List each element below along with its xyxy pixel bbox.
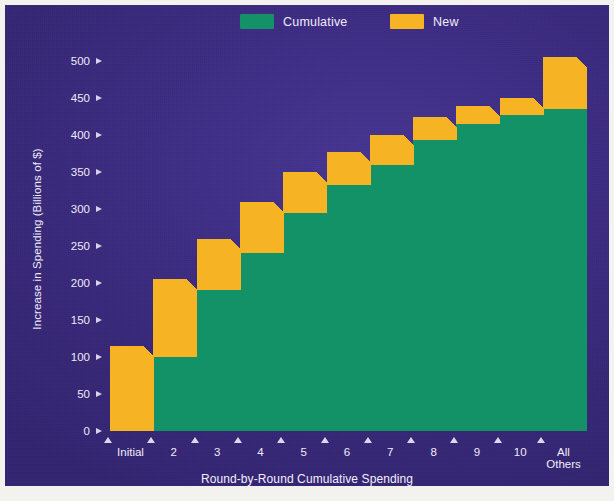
y-tick-arrow-icon: [96, 428, 102, 434]
x-tick-2: [191, 437, 199, 443]
y-tick-label-400: 400: [44, 129, 90, 141]
bar-9[interactable]: [456, 106, 500, 431]
bar-5[interactable]: [283, 172, 327, 431]
y-tick-arrow-icon: [96, 206, 102, 212]
x-tick-label-2: 2: [171, 446, 177, 458]
bar-initial[interactable]: [110, 346, 154, 431]
legend-label-cumulative: Cumulative: [283, 15, 348, 29]
bar-7[interactable]: [370, 135, 414, 431]
y-tick-label-200: 200: [44, 277, 90, 289]
x-tick-9: [494, 437, 502, 443]
y-tick-arrow-icon: [96, 169, 102, 175]
bar-top-cap-bevel: [489, 106, 500, 117]
bar-top-cap: [197, 239, 230, 250]
bar-top-cap: [500, 98, 533, 109]
bar-top-cap: [153, 279, 186, 290]
bar-3[interactable]: [197, 239, 241, 431]
bar-4[interactable]: [240, 202, 284, 431]
y-tick-arrow-icon: [96, 58, 102, 64]
y-tick-label-250: 250: [44, 240, 90, 252]
y-tick-arrow-icon: [96, 243, 102, 249]
bar-face-new: [197, 250, 241, 291]
legend-item-cumulative[interactable]: Cumulative: [240, 14, 348, 29]
x-tick-label-8: 8: [430, 446, 436, 458]
bar-face-cumulative: [240, 253, 284, 431]
bar-face-new: [543, 68, 587, 109]
bar-top-cap: [327, 152, 360, 163]
x-tick-3: [234, 437, 242, 443]
bar-face-cumulative: [370, 165, 414, 431]
x-tick-label-7: 7: [387, 446, 393, 458]
y-tick-label-500: 500: [44, 55, 90, 67]
bar-top-cap-bevel: [273, 202, 284, 213]
bar-top-cap-bevel: [316, 172, 327, 183]
legend-swatch-cumulative: [240, 14, 274, 29]
bar-top-cap-bevel: [143, 346, 154, 357]
y-tick-label-0: 0: [44, 425, 90, 437]
bar-face-new: [370, 146, 414, 165]
bar-face-cumulative: [197, 290, 241, 431]
bar-top-cap: [283, 172, 316, 183]
x-tick-label-3: 3: [214, 446, 220, 458]
bar-top-cap-bevel: [533, 98, 544, 109]
y-tick-label-350: 350: [44, 166, 90, 178]
x-tick-4: [277, 437, 285, 443]
bar-face-new: [327, 163, 371, 184]
bar-face-new: [413, 128, 457, 141]
x-tick-label-initial: Initial: [117, 446, 144, 458]
y-tick-arrow-icon: [96, 280, 102, 286]
x-tick-7: [407, 437, 415, 443]
chart-figure: Cumulative New Increase in Spending (Bil…: [0, 0, 614, 501]
x-tick-1: [147, 437, 155, 443]
bar-face-cumulative: [283, 213, 327, 431]
bar-face-new: [153, 290, 197, 357]
bar-top-cap-bevel: [576, 57, 587, 68]
legend-item-new[interactable]: New: [390, 14, 459, 29]
bar-all-others[interactable]: [543, 57, 587, 431]
bar-2[interactable]: [153, 279, 197, 431]
y-tick-arrow-icon: [96, 317, 102, 323]
bar-top-cap-bevel: [186, 279, 197, 290]
bar-top-cap-bevel: [360, 152, 371, 163]
x-tick-label-all-others: AllOthers: [546, 446, 581, 470]
bar-6[interactable]: [327, 152, 371, 431]
x-tick-label-10: 10: [514, 446, 527, 458]
bar-face-cumulative: [413, 140, 457, 431]
y-tick-label-100: 100: [44, 351, 90, 363]
x-tick-label-9: 9: [474, 446, 480, 458]
x-tick-label-4: 4: [257, 446, 263, 458]
y-axis-title: Increase in Spending (Billions of $): [31, 114, 43, 364]
x-tick-label-5: 5: [300, 446, 306, 458]
y-tick-arrow-icon: [96, 95, 102, 101]
x-tick-10: [537, 437, 545, 443]
bar-face-new: [240, 213, 284, 254]
y-tick-arrow-icon: [96, 354, 102, 360]
bar-top-cap: [370, 135, 403, 146]
bar-face-cumulative: [543, 109, 587, 431]
y-tick-label-50: 50: [44, 388, 90, 400]
bar-top-cap-bevel: [446, 117, 457, 128]
legend-swatch-new: [390, 14, 424, 29]
bar-top-cap-bevel: [403, 135, 414, 146]
x-tick-label-6: 6: [344, 446, 350, 458]
x-tick-5: [321, 437, 329, 443]
x-tick-6: [364, 437, 372, 443]
x-tick-8: [450, 437, 458, 443]
bar-face-cumulative: [153, 357, 197, 431]
x-axis-title: Round-by-Round Cumulative Spending: [0, 472, 614, 486]
bar-8[interactable]: [413, 117, 457, 431]
bar-face-cumulative: [327, 185, 371, 431]
x-tick-0: [104, 437, 112, 443]
bar-top-cap: [543, 57, 576, 68]
bar-face-new: [500, 109, 544, 115]
bar-face-new: [456, 117, 500, 124]
legend-label-new: New: [433, 15, 459, 29]
bar-10[interactable]: [500, 98, 544, 431]
bar-face-new: [110, 357, 154, 431]
y-tick-label-450: 450: [44, 92, 90, 104]
bar-face-cumulative: [500, 115, 544, 431]
bar-face-cumulative: [456, 124, 500, 431]
bar-top-cap: [240, 202, 273, 213]
y-tick-arrow-icon: [96, 132, 102, 138]
bar-top-cap: [413, 117, 446, 128]
